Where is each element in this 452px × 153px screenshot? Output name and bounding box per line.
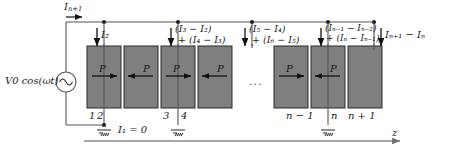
power-label-b4: P <box>217 64 224 74</box>
node-label-n-1: n − 1 <box>286 111 314 121</box>
node-current-label-n: (Iₙ₋₁ − Iₙ₋₂) + (Iₙ − Iₙ₋₁) <box>325 24 379 43</box>
z-axis-label: z <box>392 128 397 138</box>
power-label-b6: P <box>330 64 337 74</box>
zero-current-annotation: I₁ = 0 <box>118 125 147 135</box>
node-current-label-5: (I₅ − I₄) + (I₆ − I₅) <box>249 24 300 44</box>
node-label-n: n <box>331 111 337 121</box>
node-label-1: 1 <box>89 111 95 121</box>
node-label-4: 4 <box>181 111 187 121</box>
node-label-n+1: n + 1 <box>348 111 376 121</box>
power-label-b2: P <box>143 64 150 74</box>
ellipsis-label: ... <box>249 76 263 87</box>
node-label-2: 2 <box>97 111 103 121</box>
power-label-b5: P <box>286 64 293 74</box>
node-current-label-2: I₂ <box>101 30 109 40</box>
power-label-b1: P <box>99 64 106 74</box>
circuit-vector-layer <box>0 0 452 153</box>
node-current-label-n1: Iₙ₊₁ − Iₙ <box>385 30 425 40</box>
node-current-label-3: (I₃ − I₂) + (I₄ − I₃) <box>175 24 226 44</box>
figure-canvas: In+1 V0 cos(ωt) I₂ (I₃ − I₂) + (I₄ − I₃)… <box>0 0 452 153</box>
block-group <box>87 46 382 108</box>
node-label-3: 3 <box>163 111 169 121</box>
ac-source-icon <box>56 72 76 92</box>
feed-current-label: In+1 <box>64 2 82 13</box>
power-label-b3: P <box>173 64 180 74</box>
source-label: V0 cos(ωt) <box>5 76 59 86</box>
